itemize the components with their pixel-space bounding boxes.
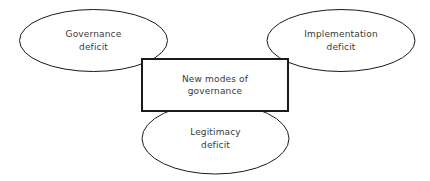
rectangle-new-modes-of-governance[interactable] (142, 59, 288, 111)
ellipse-legitimacy-deficit[interactable] (142, 103, 289, 174)
ellipse-implementation-deficit[interactable] (267, 10, 415, 72)
diagram-canvas: Governance deficit Implementation defici… (0, 0, 430, 181)
diagram-shapes (0, 0, 430, 181)
